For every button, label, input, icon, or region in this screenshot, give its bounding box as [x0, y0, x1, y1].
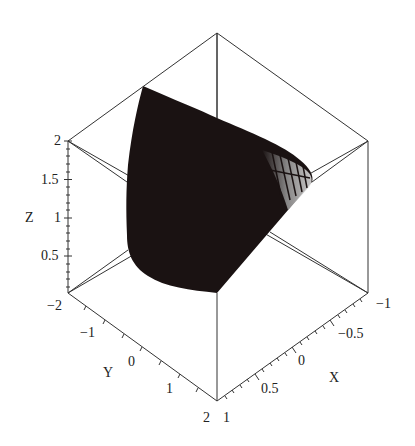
- y-tick-minus-2: −2: [47, 299, 62, 313]
- z-tick-2: 2: [54, 134, 61, 148]
- y-axis-ticks: [84, 306, 198, 392]
- z-tick-1-5: 1.5: [41, 173, 59, 187]
- x-axis-ticks: [225, 299, 362, 399]
- y-tick-1: 1: [166, 382, 173, 396]
- y-axis-title: Y: [103, 366, 113, 380]
- z-tick-0-5: 0.5: [41, 249, 59, 263]
- 3d-surface-plot: [0, 0, 415, 446]
- surface: [126, 86, 312, 293]
- y-tick-2: 2: [203, 411, 210, 425]
- z-tick-1: 1: [54, 211, 61, 225]
- x-axis-title: X: [329, 371, 339, 385]
- x-tick-minus-1: −1: [376, 297, 391, 311]
- y-tick-0: 0: [128, 355, 135, 369]
- z-axis-title: Z: [25, 211, 34, 225]
- x-tick-1: 1: [223, 411, 230, 425]
- y-tick-minus-1: −1: [80, 326, 95, 340]
- x-tick-minus-0-5: −0.5: [338, 327, 363, 341]
- x-tick-0: 0: [298, 354, 305, 368]
- x-tick-0-5: 0.5: [261, 382, 279, 396]
